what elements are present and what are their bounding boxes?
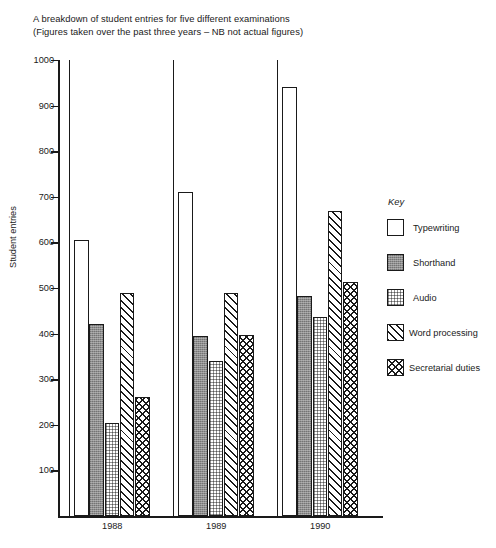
bar-group-1989: [178, 60, 255, 516]
bar-1989-typewriting: [178, 192, 193, 516]
x-axis-label-1990: 1990: [268, 521, 373, 531]
y-tick-label: 400: [39, 329, 54, 339]
y-tick-label: 300: [39, 374, 54, 384]
chart-title-line-1: A breakdown of student entries for five …: [33, 13, 303, 26]
bar-1989-word-processing: [224, 293, 239, 516]
x-axis-label-1989: 1989: [164, 521, 269, 531]
plot-area: 1002003004005006007008009001000: [58, 60, 383, 516]
legend-swatch-white-icon: [387, 219, 404, 236]
bar-1988-shorthand: [89, 324, 104, 516]
legend-label: Audio: [413, 293, 437, 303]
y-tick-label: 100: [39, 465, 54, 475]
bar-1988-typewriting: [74, 240, 89, 516]
y-tick-label: 1000: [34, 55, 54, 65]
y-tick-label: 500: [39, 283, 54, 293]
group-separator-1988: [69, 60, 70, 516]
legend-swatch-dots-icon: [387, 289, 404, 306]
chart-title: A breakdown of student entries for five …: [33, 13, 303, 38]
legend-swatch-solid-grey-icon: [387, 254, 404, 271]
legend-label: Secretarial duties: [409, 363, 480, 373]
bar-1989-secretarial-duties: [239, 335, 254, 516]
x-axis-label-1988: 1988: [60, 521, 165, 531]
legend-swatch-diagonal-icon: [387, 324, 404, 341]
legend-item-secretarial-duties: Secretarial duties: [387, 359, 493, 376]
bar-group-1988: [74, 60, 151, 516]
bar-1990-secretarial-duties: [343, 282, 358, 516]
legend-item-audio: Audio: [387, 289, 493, 306]
legend-item-shorthand: Shorthand: [387, 254, 493, 271]
legend-item-word-processing: Word processing: [387, 324, 493, 341]
bar-1990-word-processing: [328, 211, 343, 516]
group-separator-1990: [277, 60, 278, 516]
group-separator-1989: [173, 60, 174, 516]
y-tick-label: 200: [39, 420, 54, 430]
bar-group-1990: [282, 60, 359, 516]
y-tick-label: 700: [39, 192, 54, 202]
y-axis-title: Student entries: [8, 206, 18, 268]
legend-label: Typewriting: [413, 223, 459, 233]
y-tick-label: 900: [39, 101, 54, 111]
y-tick-label: 800: [39, 146, 54, 156]
bar-1988-secretarial-duties: [135, 397, 150, 516]
bar-1989-shorthand: [193, 336, 208, 516]
x-axis-line: [58, 516, 383, 518]
legend-label: Word processing: [409, 328, 478, 338]
y-tick-label: 600: [39, 237, 54, 247]
chart-title-line-2: (Figures taken over the past three years…: [33, 26, 303, 39]
bar-1988-word-processing: [120, 293, 135, 516]
bar-chart: A breakdown of student entries for five …: [0, 0, 496, 548]
legend-item-typewriting: Typewriting: [387, 219, 493, 236]
legend-label: Shorthand: [413, 258, 455, 268]
bar-1990-shorthand: [297, 296, 312, 516]
bar-1988-audio: [105, 423, 120, 516]
legend-items: TypewritingShorthandAudioWord processing…: [387, 219, 493, 376]
legend: Key TypewritingShorthandAudioWord proces…: [387, 196, 493, 394]
legend-title: Key: [388, 196, 493, 207]
bar-1989-audio: [209, 361, 224, 516]
bar-1990-typewriting: [282, 87, 297, 516]
bar-1990-audio: [313, 317, 328, 516]
legend-swatch-crosshatch-icon: [387, 359, 404, 376]
